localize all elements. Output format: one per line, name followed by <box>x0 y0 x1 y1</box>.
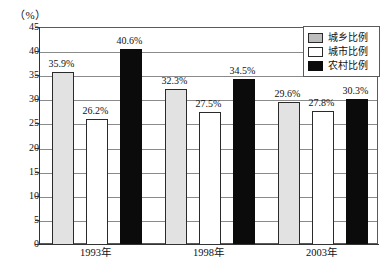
bar <box>120 49 142 245</box>
legend-label: 城市比例 <box>328 46 368 57</box>
bar-value-label: 29.6% <box>275 88 301 99</box>
bar <box>312 111 334 245</box>
bar <box>52 72 74 245</box>
y-tick-label: 25 <box>3 118 39 128</box>
y-tick-mark <box>35 196 39 197</box>
legend-label: 城乡比例 <box>328 32 368 43</box>
bar-value-label: 30.3% <box>343 85 369 96</box>
y-axis: 051015202530354045 <box>0 0 39 273</box>
bar <box>233 79 255 245</box>
y-tick-mark <box>35 51 39 52</box>
x-tick-label: 2003年 <box>306 247 337 259</box>
bar-chart: （%） 051015202530354045 1993年1998年2003年 3… <box>0 0 389 273</box>
bar-value-label: 32.3% <box>162 75 188 86</box>
y-tick-label: 10 <box>3 191 39 201</box>
legend-swatch-icon <box>308 33 323 43</box>
y-tick-label: 20 <box>3 143 39 153</box>
y-tick-mark <box>35 148 39 149</box>
bar <box>165 89 187 245</box>
y-axis-line <box>39 27 40 245</box>
legend-item: 城市比例 <box>308 45 375 58</box>
bar <box>346 99 368 245</box>
bar-value-label: 26.2% <box>83 105 109 116</box>
y-tick-mark <box>35 75 39 76</box>
bar-value-label: 35.9% <box>49 58 75 69</box>
y-tick-label: 35 <box>3 70 39 80</box>
legend-swatch-icon <box>308 47 323 57</box>
bar-value-label: 27.5% <box>196 98 222 109</box>
bar <box>199 112 221 245</box>
y-tick-label: 15 <box>3 167 39 177</box>
y-tick-mark <box>35 99 39 100</box>
bar-value-label: 27.8% <box>309 97 335 108</box>
legend-label: 农村比例 <box>328 60 368 71</box>
y-tick-label: 0 <box>3 239 39 249</box>
y-tick-label: 30 <box>3 94 39 104</box>
y-tick-mark <box>35 123 39 124</box>
y-tick-label: 45 <box>3 22 39 32</box>
y-tick-label: 40 <box>3 46 39 56</box>
legend-swatch-icon <box>308 61 323 71</box>
bar <box>86 119 108 245</box>
y-tick-mark <box>35 27 39 28</box>
x-tick-label: 1998年 <box>193 247 224 259</box>
bar-value-label: 34.5% <box>230 65 256 76</box>
bar-value-label: 40.6% <box>117 35 143 46</box>
x-axis-line <box>39 244 379 245</box>
y-tick-mark <box>35 220 39 221</box>
legend: 城乡比例城市比例农村比例 <box>303 26 380 77</box>
x-tick-label: 1993年 <box>80 247 111 259</box>
y-tick-mark <box>35 172 39 173</box>
y-tick-label: 5 <box>3 215 39 225</box>
legend-item: 城乡比例 <box>308 31 375 44</box>
bar <box>278 102 300 245</box>
legend-item: 农村比例 <box>308 59 375 72</box>
